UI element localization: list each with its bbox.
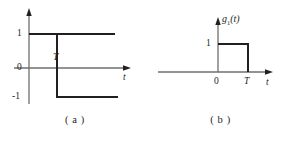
panel-b: 1 0 T t g1(t) ( b ) — [150, 0, 291, 142]
panel-b-x-axis — [158, 69, 273, 74]
panel-b-waveform — [218, 44, 248, 72]
panel-a: 1 0 -1 T t ( a ) — [0, 0, 150, 142]
panel-b-ytick-1: 1 — [206, 39, 211, 49]
panel-a-x-axis — [14, 65, 131, 70]
panel-a-ytick-minus1: -1 — [12, 92, 20, 102]
panel-b-signal-label-arg: (t) — [230, 13, 239, 24]
panel-b-plot — [150, 0, 291, 112]
panel-b-xaxis-label: t — [266, 78, 269, 88]
panel-a-caption: ( a ) — [0, 114, 150, 125]
panel-a-ytick-1: 1 — [17, 29, 22, 39]
panel-b-signal-label: g1(t) — [222, 14, 240, 27]
panel-a-xaxis-label: t — [123, 73, 126, 83]
panel-a-xtick-T: T — [53, 53, 58, 63]
panel-a-y-axis — [26, 8, 31, 104]
panel-a-ytick-0: 0 — [17, 63, 22, 73]
panel-b-xtick-0: 0 — [214, 77, 219, 87]
panel-b-xtick-T: T — [244, 77, 249, 87]
panel-a-waveform — [29, 34, 118, 97]
figure-root: 1 0 -1 T t ( a ) 1 — [0, 0, 291, 142]
panel-b-caption: ( b ) — [150, 114, 291, 125]
panel-a-plot — [0, 0, 150, 112]
